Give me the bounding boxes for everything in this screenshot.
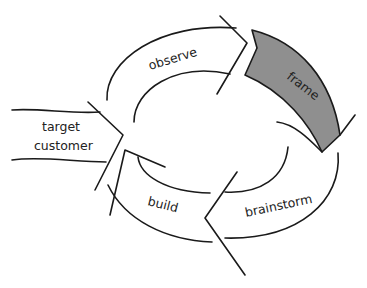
build-label: build <box>146 193 179 215</box>
entry-label-line2: customer <box>34 138 94 153</box>
entry-arrow-target-customer: target customer <box>12 102 123 190</box>
entry-arrow-bottom-line <box>12 159 106 162</box>
brainstorm-arrow-chevron <box>205 172 245 275</box>
brainstorm-outer-arc <box>225 153 338 238</box>
brainstorm-inner-arc <box>225 147 288 192</box>
entry-label-line1: target <box>42 119 80 134</box>
observe-label: observe <box>146 44 199 73</box>
observe-inner-arc <box>134 71 230 122</box>
brainstorm-right-tick <box>340 115 355 135</box>
brainstorm-label: brainstorm <box>244 191 314 220</box>
build-outer-arc <box>108 185 212 242</box>
design-cycle-diagram: target customer observe frame brainstorm… <box>0 0 367 288</box>
stage-observe: observe <box>107 16 247 122</box>
stage-frame: frame <box>245 30 340 152</box>
entry-arrow-chevron <box>88 102 123 190</box>
frame-highlight-shape <box>245 30 340 152</box>
stage-build: build <box>108 150 212 242</box>
entry-arrow-top-line <box>12 110 100 113</box>
build-inner-arc <box>138 157 210 193</box>
